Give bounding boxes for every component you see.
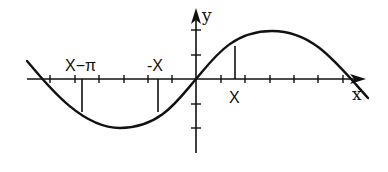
y-axis-label: y — [202, 7, 212, 24]
x-point-label: X — [229, 90, 240, 106]
neg-x-point-label: -X — [147, 58, 163, 74]
x-axis-label: x — [352, 86, 362, 103]
x-minus-pi-point-label: X−π — [65, 58, 96, 74]
sine-graph — [0, 0, 388, 172]
